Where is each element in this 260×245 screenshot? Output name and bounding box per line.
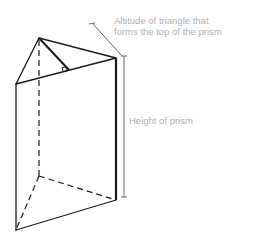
top-triangle xyxy=(16,38,116,84)
top-back-edge xyxy=(39,38,116,58)
altitude-label: Altitude of triangle that forms the top … xyxy=(114,15,222,37)
height-label: Height of prism xyxy=(129,115,193,126)
altitude-label-line2: forms the top of the prism xyxy=(114,26,222,37)
top-left-edge xyxy=(16,38,39,84)
height-dimension xyxy=(121,56,127,197)
altitude-label-line1: Altitude of triangle that xyxy=(114,15,222,26)
right-angle-marker xyxy=(62,67,67,72)
altitude xyxy=(39,38,69,72)
bottom-left-hidden-edge xyxy=(16,176,39,230)
altitude-line xyxy=(39,38,69,70)
altitude-leader-tick xyxy=(89,23,95,24)
bottom-front-edge xyxy=(16,200,116,230)
bottom-back-hidden-edge xyxy=(39,176,116,200)
bottom-triangle xyxy=(16,176,116,230)
